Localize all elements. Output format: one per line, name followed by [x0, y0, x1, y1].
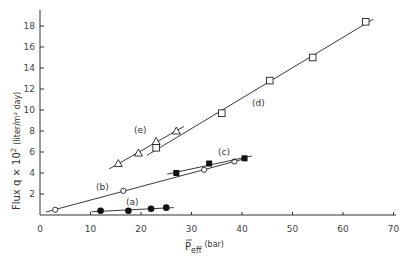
series-c: [167, 155, 252, 176]
y-tick-label: 16: [24, 42, 36, 52]
series-label-c: (c): [218, 147, 230, 157]
y-tick-label: 18: [24, 21, 36, 31]
filled-circle-marker: [148, 205, 155, 212]
x-tick-label: 60: [337, 224, 349, 234]
y-tick-label: 6: [29, 147, 35, 157]
y-tick-label: 12: [24, 84, 35, 94]
open-square-marker: [362, 19, 369, 26]
svg-text:Peff(bar): Peff(bar): [185, 240, 224, 255]
axes: 01020304050607024681012141618: [24, 10, 400, 234]
series-label-d: (d): [252, 98, 265, 108]
y-tick-label: 14: [24, 63, 36, 73]
y-axis-label: Flux q × 102(liter/m² day): [10, 92, 22, 210]
flux-chart: 01020304050607024681012141618 (a) (b) (c…: [0, 0, 412, 263]
filled-circle-marker: [125, 208, 132, 215]
open-triangle-marker: [134, 149, 142, 156]
open-triangle-marker: [172, 127, 180, 134]
x-axis-label: Peff(bar): [185, 240, 224, 255]
open-square-marker: [219, 110, 226, 117]
series-label-b: (b): [96, 182, 109, 192]
series-b: [46, 159, 242, 213]
y-tick-label: 10: [24, 105, 36, 115]
filled-square-marker: [242, 155, 248, 161]
open-triangle-marker: [114, 160, 122, 167]
series-label-e: (e): [134, 125, 147, 135]
x-tick-label: 70: [388, 224, 400, 234]
filled-square-marker: [173, 170, 179, 176]
y-tick-label: 8: [29, 126, 35, 136]
open-square-marker: [153, 145, 160, 152]
x-tick-label: 30: [186, 224, 198, 234]
filled-circle-marker: [163, 204, 170, 211]
y-tick-label: 2: [29, 189, 35, 199]
x-tick-label: 20: [135, 224, 147, 234]
open-square-marker: [266, 77, 273, 84]
open-circle-marker: [202, 167, 207, 172]
open-circle-marker: [121, 188, 126, 193]
filled-circle-marker: [97, 208, 104, 215]
x-tick-label: 10: [85, 224, 97, 234]
open-square-marker: [309, 54, 316, 61]
x-tick-label: 40: [236, 224, 248, 234]
open-circle-marker: [53, 207, 58, 212]
filled-square-marker: [206, 161, 212, 167]
series-d: [147, 19, 373, 156]
series-label-a: (a): [126, 197, 139, 207]
svg-text:Flux q × 102(liter/m² day): Flux q × 102(liter/m² day): [10, 92, 22, 210]
y-tick-label: 4: [29, 168, 35, 178]
x-tick-label: 50: [287, 224, 299, 234]
x-tick-label: 0: [37, 224, 43, 234]
